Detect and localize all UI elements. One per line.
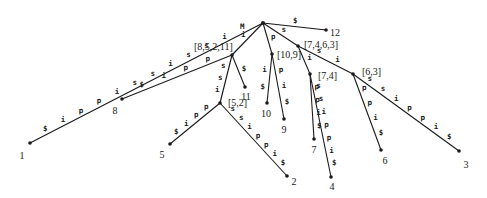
edge-char: i	[215, 85, 220, 94]
edge-char: $	[293, 16, 298, 25]
edge-char: $	[281, 158, 286, 167]
edge-n63-l3	[353, 74, 459, 151]
internal-node-label: [7,4]	[318, 70, 337, 81]
leaf-node	[28, 141, 32, 145]
edge-char: i	[222, 32, 227, 41]
internal-node-label: [7,4,6,3]	[304, 39, 338, 50]
edge-char: p	[184, 63, 189, 72]
leaf-node	[329, 175, 333, 179]
leaf-label: 12	[330, 27, 340, 38]
edge-char: s	[133, 78, 138, 87]
edge-n52-l5	[170, 103, 220, 144]
internal-node	[218, 101, 222, 105]
internal-node	[270, 52, 274, 56]
edge-char: p	[264, 140, 269, 149]
edge-char: $	[140, 80, 145, 89]
leaf-node	[324, 28, 328, 32]
edge-char: i	[316, 108, 321, 117]
edge-n52-l2	[220, 103, 287, 176]
edge-char: i	[168, 59, 173, 68]
edge-char: i	[115, 87, 120, 96]
edge-char: i	[434, 122, 439, 131]
internal-node-label: [6,3]	[362, 66, 381, 77]
leaf-label: 10	[261, 108, 271, 119]
edge-char: s	[381, 84, 386, 93]
edge-char: $	[285, 97, 290, 106]
internal-node	[296, 44, 300, 48]
edge-char: p	[421, 113, 426, 122]
edge-char: s	[218, 73, 223, 82]
edge-char: $	[43, 124, 48, 133]
edge-n109-l10	[267, 54, 272, 103]
edge-char: $	[447, 132, 452, 141]
leaf-label: 5	[160, 149, 165, 160]
edge-char: p	[97, 96, 102, 105]
edge-char: i	[307, 53, 312, 62]
edge-char: s	[150, 69, 155, 78]
edge-char: i	[272, 149, 277, 158]
internal-node	[308, 72, 312, 76]
edge-char: p	[324, 120, 329, 129]
leaf-node	[282, 117, 286, 121]
edge-char: s	[221, 61, 226, 70]
edge-char: p	[327, 133, 332, 142]
leaf-label: 4	[330, 181, 335, 192]
edge-char: i	[247, 122, 252, 131]
edge-char: s	[239, 113, 244, 122]
edge-char: p	[204, 102, 209, 111]
edge-char: p	[407, 103, 412, 112]
leaf-label: 8	[113, 105, 118, 116]
edge-char: p	[256, 131, 261, 140]
leaf-label: 6	[383, 155, 388, 166]
leaf-node	[120, 97, 124, 101]
edge-char: $	[174, 127, 179, 136]
edge-n63-l6	[353, 74, 381, 150]
internal-node-label: [10,9]	[277, 49, 301, 60]
edge-root-n8521	[232, 23, 263, 55]
leaf-node	[457, 149, 461, 153]
leaf-node	[285, 174, 289, 178]
leaf-label: 3	[464, 159, 469, 170]
internal-node-label: [8,5,2,11]	[194, 41, 233, 52]
edge-char: $	[260, 82, 265, 91]
edge-char: s	[282, 25, 287, 34]
edge-char: i	[322, 107, 327, 116]
edge-char: i	[184, 119, 189, 128]
edge-char: p	[206, 54, 211, 63]
edge-char: $	[317, 121, 322, 130]
edge-char: p	[368, 98, 373, 107]
leaf-node	[379, 148, 383, 152]
leaf-label: 11	[241, 91, 251, 102]
internal-node	[351, 72, 355, 76]
leaf-node	[243, 85, 247, 89]
suffix-tree-diagram: Mississippi$ippi$$ssippi$ssippi$pi$pi$$s…	[0, 0, 487, 198]
edge-char: p	[271, 32, 276, 41]
edge-char: i	[61, 115, 66, 124]
leaf-label: 7	[312, 144, 317, 155]
edge-char: $	[379, 128, 384, 137]
edge-char: i	[262, 65, 267, 74]
edge-char: i	[394, 94, 399, 103]
leaf-node	[168, 142, 172, 146]
edge-char: p	[194, 110, 199, 119]
edge-char: i	[335, 55, 340, 64]
edge-char: i	[162, 71, 167, 80]
edge-char: p	[279, 65, 284, 74]
leaf-label: 9	[282, 124, 287, 135]
suffix-tree-svg: Mississippi$ippi$$ssippi$ssippi$pi$pi$$s…	[0, 0, 487, 198]
leaf-label: 2	[292, 176, 297, 187]
leaf-node	[312, 137, 316, 141]
root-node	[261, 21, 265, 25]
edge-char: s	[186, 50, 191, 59]
edge-char: p	[362, 83, 367, 92]
edge-char: i	[373, 113, 378, 122]
leaf-node	[265, 101, 269, 105]
edge-char: i	[282, 81, 287, 90]
edge-char: p	[79, 106, 84, 115]
edge-char: i	[241, 30, 246, 39]
internal-node	[230, 53, 234, 57]
edge-char: s	[316, 81, 321, 90]
edge-char: i	[329, 146, 334, 155]
leaf-label: 1	[20, 150, 25, 161]
edge-char: $	[332, 158, 337, 167]
